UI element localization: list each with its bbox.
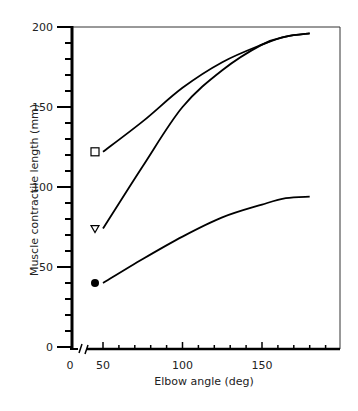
y-tick-label: 0: [46, 341, 53, 354]
y-tick-label: 200: [32, 21, 53, 34]
circle-marker-icon: [91, 279, 99, 287]
curve-circle: [103, 197, 310, 283]
x-tick-label: 150: [252, 359, 273, 372]
x-axis: 050100150: [67, 342, 341, 372]
data-series: [91, 33, 310, 287]
y-tick-label: 50: [39, 261, 53, 274]
line-chart: 050100150200 050100150 Elbow angle (deg)…: [0, 0, 358, 411]
x-axis-title: Elbow angle (deg): [154, 375, 254, 388]
square-marker-icon: [91, 148, 99, 156]
triangle-marker-icon: [91, 226, 99, 233]
axis-break-mark: [79, 344, 82, 353]
x-tick-label: 0: [67, 359, 74, 372]
y-axis-title: Muscle contractile length (mm): [28, 104, 41, 276]
x-tick-label: 50: [96, 359, 110, 372]
plot-frame: [72, 27, 340, 349]
x-tick-label: 100: [172, 359, 193, 372]
curve-square: [103, 33, 310, 151]
